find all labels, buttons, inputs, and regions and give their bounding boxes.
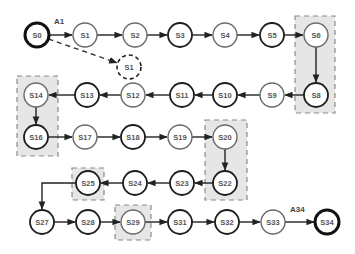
state-node-s6: S6 [304, 23, 328, 47]
state-label: S14 [29, 91, 43, 100]
state-label: S2 [130, 31, 139, 40]
state-label: S18 [126, 133, 139, 142]
state-node-s20: S20 [213, 125, 237, 149]
state-node-s11: S11 [170, 83, 194, 107]
state-node-s5: S5 [260, 23, 284, 47]
state-label: S8 [311, 91, 320, 100]
state-node-s14: S14 [24, 83, 48, 107]
state-label: S10 [218, 91, 231, 100]
state-node-s29: S29 [121, 210, 145, 234]
state-node-s23: S23 [170, 171, 194, 195]
state-node-s33: S33 [261, 210, 285, 234]
state-label: S12 [126, 91, 139, 100]
edge-label-a1: A1 [54, 17, 65, 26]
state-label: S1 [80, 31, 89, 40]
state-label: S0 [32, 31, 41, 40]
state-label: S28 [81, 218, 94, 227]
edge-label-a34: A34 [290, 205, 305, 214]
state-label: S34 [320, 218, 334, 227]
state-label: S16 [29, 133, 42, 142]
state-node-s1b: S1 [117, 55, 141, 79]
state-node-s32: S32 [215, 210, 239, 234]
state-node-s1: S1 [73, 23, 97, 47]
state-node-s10: S10 [213, 83, 237, 107]
state-label: S17 [78, 133, 91, 142]
state-label: S23 [175, 179, 188, 188]
state-label: S5 [267, 31, 276, 40]
state-label: S20 [218, 133, 231, 142]
state-label: S13 [80, 91, 93, 100]
state-label: S22 [218, 179, 231, 188]
state-label: S4 [220, 31, 230, 40]
state-node-s13: S13 [75, 83, 99, 107]
state-node-s17: S17 [73, 125, 97, 149]
state-label: S9 [267, 91, 276, 100]
state-label: S31 [173, 218, 186, 227]
state-node-s9: S9 [260, 83, 284, 107]
state-label: S11 [176, 91, 189, 100]
state-label: S33 [266, 218, 279, 227]
state-node-s8: S8 [304, 83, 328, 107]
state-label: S6 [311, 31, 320, 40]
state-node-s16: S16 [24, 125, 48, 149]
state-node-s27: S27 [30, 210, 54, 234]
state-label: S29 [126, 218, 139, 227]
state-node-s18: S18 [121, 125, 145, 149]
diagram-canvas: S0S1S2S3S4S5S6S1S8S9S10S11S12S13S14S16S1… [0, 0, 355, 254]
state-node-s3: S3 [168, 23, 192, 47]
state-node-s31: S31 [168, 210, 192, 234]
state-label: S24 [128, 179, 142, 188]
edge-s25-s27 [42, 183, 76, 209]
state-node-s0: S0 [25, 23, 49, 47]
state-label: S25 [81, 179, 94, 188]
state-label: S1 [124, 63, 133, 72]
nodes: S0S1S2S3S4S5S6S1S8S9S10S11S12S13S14S16S1… [24, 23, 339, 234]
state-node-s4: S4 [213, 23, 237, 47]
state-node-s34: S34 [315, 210, 339, 234]
state-label: S32 [220, 218, 233, 227]
state-label: S3 [175, 31, 184, 40]
state-label: S27 [35, 218, 48, 227]
state-node-s28: S28 [76, 210, 100, 234]
state-label: S19 [173, 133, 186, 142]
state-diagram: S0S1S2S3S4S5S6S1S8S9S10S11S12S13S14S16S1… [0, 0, 355, 254]
state-node-s19: S19 [168, 125, 192, 149]
state-node-s12: S12 [121, 83, 145, 107]
state-node-s22: S22 [213, 171, 237, 195]
state-node-s25: S25 [76, 171, 100, 195]
state-node-s2: S2 [123, 23, 147, 47]
state-node-s24: S24 [123, 171, 147, 195]
